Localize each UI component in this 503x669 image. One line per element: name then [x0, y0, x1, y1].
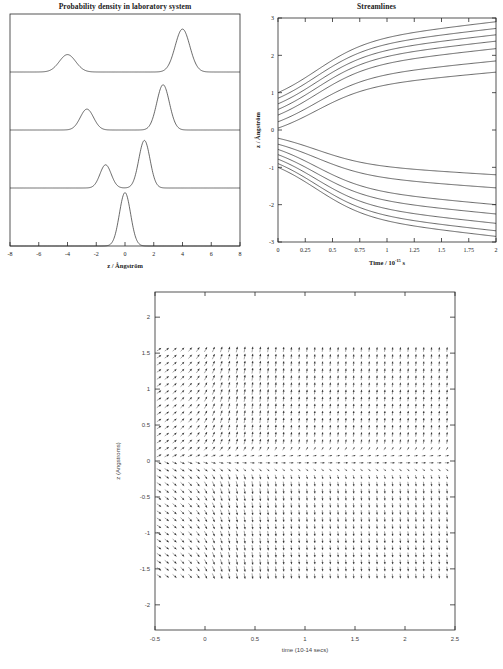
- tick-label: -0.5: [150, 636, 161, 642]
- tick-label: 1: [303, 636, 307, 642]
- tick-label: 0: [147, 458, 151, 464]
- tick-label: -2: [145, 602, 151, 608]
- tick-label: 0: [203, 636, 207, 642]
- tick-label: -1: [269, 165, 274, 171]
- tick-label: 2: [403, 636, 407, 642]
- probability-density-chart: -8-6-4-202468z / Ångström: [0, 0, 250, 272]
- tick-label: 4: [181, 251, 184, 257]
- density-curve: [10, 140, 240, 188]
- tick-label: 3: [271, 15, 274, 21]
- plot-frame: [155, 292, 455, 630]
- velocity-field-chart: -0.500.511.522.5-2-1.5-1-0.500.511.52z (…: [100, 278, 503, 669]
- tick-label: 2: [147, 314, 151, 320]
- streamline: [278, 138, 496, 175]
- y-axis-label: z / Ångström: [254, 112, 261, 148]
- tick-label: 1.5: [438, 247, 446, 253]
- tick-label: -2: [94, 251, 99, 257]
- tick-label: 0.5: [142, 422, 151, 428]
- arrow-field: [157, 347, 449, 579]
- tick-label: 0.5: [329, 247, 337, 253]
- tick-label: 1.75: [464, 247, 475, 253]
- tick-label: 0: [277, 247, 280, 253]
- streamlines-panel: Streamlines 00.250.50.7511.251.51.752-3-…: [250, 0, 503, 272]
- tick-label: -6: [36, 251, 41, 257]
- tick-label: 0: [124, 251, 127, 257]
- tick-label: 1.25: [409, 247, 420, 253]
- tick-label: -0.5: [140, 494, 151, 500]
- tick-label: 2: [495, 247, 498, 253]
- tick-label: 1: [147, 386, 151, 392]
- tick-label: 1.5: [351, 636, 360, 642]
- streamline: [278, 149, 496, 204]
- density-curve: [10, 29, 240, 72]
- tick-label: -3: [269, 239, 274, 245]
- tick-label: 1: [271, 90, 274, 96]
- tick-label: 6: [210, 251, 213, 257]
- tick-label: -1: [145, 530, 151, 536]
- density-curve: [10, 193, 240, 246]
- tick-label: 0: [271, 127, 274, 133]
- streamline: [278, 49, 496, 115]
- tick-label: -8: [8, 251, 13, 257]
- tick-label: -1.5: [140, 566, 151, 572]
- tick-label: 8: [239, 251, 242, 257]
- tick-label: -2: [269, 202, 274, 208]
- x-axis-label: z / Ångström: [107, 262, 143, 269]
- x-axis-label: Time / 10-15 s: [369, 258, 405, 266]
- tick-label: 2.5: [451, 636, 460, 642]
- x-axis-label: time (10-14 secs): [282, 647, 328, 653]
- streamlines-chart: 00.250.50.7511.251.51.752-3-2-10123z / Å…: [250, 0, 503, 272]
- density-curve: [10, 85, 240, 130]
- tick-label: 0.25: [300, 247, 311, 253]
- tick-label: 1.5: [142, 350, 151, 356]
- tick-label: -4: [65, 251, 70, 257]
- tick-label: 1: [386, 247, 389, 253]
- velocity-field-panel: -0.500.511.522.5-2-1.5-1-0.500.511.52z (…: [100, 278, 503, 669]
- tick-label: 2: [271, 53, 274, 59]
- probability-density-panel: Probability density in laboratory system…: [0, 0, 250, 272]
- streamline: [278, 159, 496, 223]
- tick-label: 0.75: [355, 247, 366, 253]
- tick-label: 0.5: [251, 636, 260, 642]
- tick-label: 2: [152, 251, 155, 257]
- plot-frame: [278, 18, 496, 242]
- y-axis-label: z (Angstroms): [115, 442, 121, 479]
